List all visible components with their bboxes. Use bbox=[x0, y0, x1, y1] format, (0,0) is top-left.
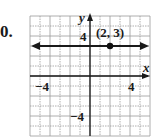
coordinate-graph: (2, 3) y x 4 −4 4 −4 bbox=[0, 0, 163, 139]
point-2-3 bbox=[107, 43, 113, 49]
y-tick-label-neg: −4 bbox=[70, 109, 84, 124]
x-tick-label-neg: −4 bbox=[35, 79, 49, 94]
y-axis bbox=[87, 13, 93, 136]
line-right-arrow-icon bbox=[140, 42, 149, 50]
y-tick-label-pos: 4 bbox=[80, 29, 87, 44]
x-axis-label: x bbox=[142, 60, 150, 75]
point-label: (2, 3) bbox=[96, 25, 124, 40]
x-tick-label-pos: 4 bbox=[128, 79, 135, 94]
y-axis-label: y bbox=[77, 10, 85, 25]
y-axis-arrow-icon bbox=[87, 13, 93, 21]
line-left-arrow-icon bbox=[31, 42, 40, 50]
